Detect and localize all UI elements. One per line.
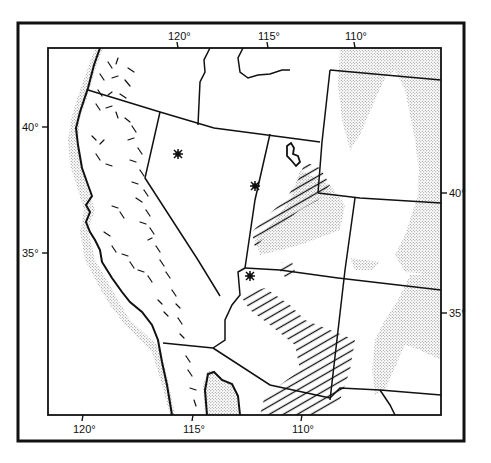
star-marker-nevada: [173, 149, 183, 159]
tick-label-top-115: 115°: [258, 30, 280, 42]
tick-label-bottom-110: 110°: [292, 423, 314, 435]
tick-label-left-35: 35°: [22, 247, 39, 259]
tick-label-right-40: 40°: [449, 187, 466, 199]
map-body: [48, 48, 441, 415]
tick-label-top-120: 120°: [168, 30, 191, 42]
star-marker-arizona: [245, 271, 255, 281]
tick-label-top-110: 110°: [345, 30, 367, 42]
tick-label-right-35: 35°: [449, 307, 466, 319]
map-figure: 120° 115° 110° 120° 115° 110° 40° 35° 40…: [0, 0, 491, 463]
tick-label-left-40: 40°: [22, 121, 39, 133]
star-marker-utah-border: [250, 181, 260, 191]
tick-label-bottom-120: 120°: [73, 423, 96, 435]
tick-label-bottom-115: 115°: [183, 423, 205, 435]
